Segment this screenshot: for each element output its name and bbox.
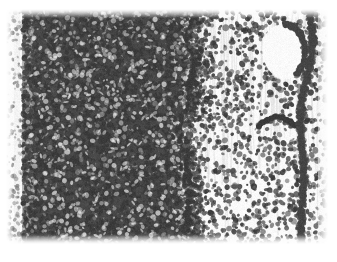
micrograph-figure bbox=[0, 0, 337, 262]
histology-image bbox=[6, 9, 328, 244]
micrograph-plate bbox=[6, 9, 328, 244]
